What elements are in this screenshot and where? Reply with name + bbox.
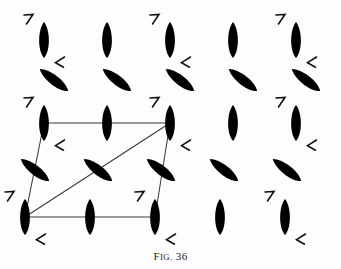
lens-motif bbox=[81, 155, 115, 185]
lens-motif bbox=[289, 65, 323, 95]
glide-mark-ell bbox=[167, 234, 176, 244]
lens-motif bbox=[215, 199, 225, 235]
caption-smallcaps: IG. bbox=[160, 252, 173, 262]
glide-mark-ell bbox=[308, 140, 317, 150]
glide-mark-ell bbox=[182, 57, 191, 67]
glide-mark-seven bbox=[150, 97, 159, 107]
lens-motif bbox=[102, 105, 112, 141]
glide-mark-seven bbox=[5, 191, 14, 201]
glide-mark-ell bbox=[56, 57, 65, 67]
lens-motif bbox=[228, 22, 238, 58]
glide-mark-ell bbox=[308, 57, 317, 67]
lens-motif bbox=[270, 155, 304, 185]
lattice-diagram bbox=[0, 0, 341, 269]
motif-layer bbox=[18, 22, 323, 235]
glide-mark-ell bbox=[182, 140, 191, 150]
figure-caption: FIG. 36 bbox=[0, 250, 341, 262]
glide-mark-ell bbox=[37, 234, 46, 244]
glide-mark-ell bbox=[56, 140, 65, 150]
lens-motif bbox=[163, 65, 197, 95]
lens-motif bbox=[207, 155, 241, 185]
lens-motif bbox=[280, 199, 290, 235]
lens-motif bbox=[39, 22, 49, 58]
figure-36: FIG. 36 bbox=[0, 0, 341, 269]
lens-motif bbox=[39, 105, 49, 141]
lens-motif bbox=[102, 22, 112, 58]
lens-motif bbox=[85, 199, 95, 235]
glide-mark-seven bbox=[24, 97, 33, 107]
lens-motif bbox=[226, 65, 260, 95]
caption-number: 36 bbox=[176, 250, 188, 262]
glide-mark-seven bbox=[150, 14, 159, 24]
glide-mark-seven bbox=[24, 14, 33, 24]
lens-motif bbox=[20, 199, 30, 235]
lens-motif bbox=[100, 65, 134, 95]
lens-motif bbox=[150, 199, 160, 235]
glide-mark-seven bbox=[276, 14, 285, 24]
lens-motif bbox=[18, 155, 52, 185]
lens-motif bbox=[165, 22, 175, 58]
lens-motif bbox=[291, 22, 301, 58]
glide-mark-seven bbox=[265, 191, 274, 201]
lens-motif bbox=[228, 105, 238, 141]
glide-mark-seven bbox=[276, 97, 285, 107]
glide-mark-ell bbox=[297, 234, 306, 244]
lens-motif bbox=[37, 65, 71, 95]
lens-motif bbox=[165, 105, 175, 141]
lens-motif bbox=[291, 105, 301, 141]
glide-mark-seven bbox=[135, 191, 144, 201]
